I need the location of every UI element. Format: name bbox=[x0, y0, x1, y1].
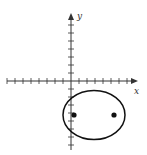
x-axis-arrow-icon bbox=[131, 78, 138, 84]
ellipse-diagram: x y bbox=[0, 0, 147, 155]
y-axis-arrow-icon bbox=[68, 13, 74, 20]
y-axis-label: y bbox=[76, 11, 83, 21]
x-axis: x bbox=[7, 78, 139, 96]
focus-point-right bbox=[111, 112, 116, 117]
x-axis-label: x bbox=[134, 86, 139, 96]
focus-point-left bbox=[71, 112, 76, 117]
